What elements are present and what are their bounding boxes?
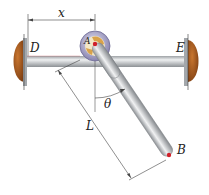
label-B: B: [176, 143, 186, 157]
label-theta: θ: [104, 97, 112, 111]
pin-B: [167, 153, 171, 157]
label-E: E: [175, 41, 185, 55]
label-L: L: [85, 119, 94, 133]
label-A: A: [83, 36, 91, 46]
diagram: x D E A θ B: [0, 0, 209, 195]
label-x: x: [58, 6, 65, 20]
pin-A: [93, 42, 97, 46]
label-D: D: [29, 41, 40, 55]
